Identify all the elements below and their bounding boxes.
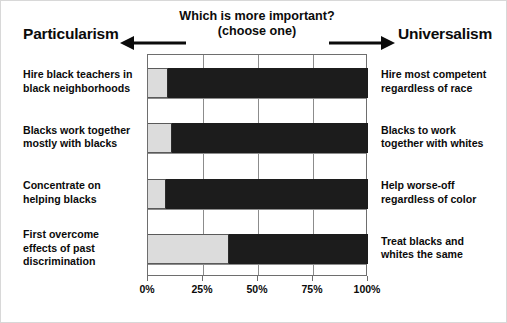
axis-ticks [147, 276, 367, 282]
arrow-right-icon [329, 35, 395, 51]
axis-tick-label: 75% [301, 283, 322, 295]
row-label-right: Blacks to work together with whites [381, 124, 503, 151]
gridline-horizontal [148, 153, 366, 154]
chart-header: Particularism Universalism Which is more… [1, 9, 507, 55]
gridline-horizontal [148, 264, 366, 265]
row-label-left: First overcome effects of past discrimin… [23, 228, 141, 268]
axis-tick-label: 50% [246, 283, 267, 295]
bar-segment-universalism [172, 123, 368, 153]
axis-tick [147, 276, 148, 281]
row-label-left: Concentrate on helping blacks [23, 179, 141, 206]
row-label-left: Hire black teachers in black neighborhoo… [23, 68, 141, 95]
axis-tick-label: 100% [354, 283, 381, 295]
pole-label-particularism: Particularism [23, 25, 119, 43]
stacked-bar [148, 234, 368, 264]
question-line-primary: Which is more important? [147, 9, 367, 24]
axis-tick [312, 276, 313, 281]
stacked-bar [148, 179, 368, 209]
bar-segment-particularism [148, 123, 172, 153]
bar-segment-universalism [166, 179, 368, 209]
bar-segment-universalism [168, 68, 368, 98]
row-label-right: Treat blacks and whites the same [381, 235, 503, 262]
gridline-horizontal [148, 98, 366, 99]
stacked-bar [148, 68, 368, 98]
plot-area [147, 54, 367, 276]
axis-tick-label: 0% [139, 283, 154, 295]
bar-segment-particularism [148, 179, 166, 209]
bar-segment-particularism [148, 234, 229, 264]
arrow-left-icon [120, 35, 186, 51]
row-label-left: Blacks work together mostly with blacks [23, 124, 141, 151]
bar-segment-particularism [148, 68, 168, 98]
axis-tick [367, 276, 368, 281]
gridline-horizontal [148, 209, 366, 210]
chart-figure: Particularism Universalism Which is more… [0, 0, 507, 323]
row-label-right: Help worse-off regardless of color [381, 179, 503, 206]
stacked-bar [148, 123, 368, 153]
row-label-right: Hire most competent regardless of race [381, 68, 503, 95]
axis-tick-labels: 0%25%50%75%100% [1, 283, 507, 301]
pole-label-universalism: Universalism [398, 25, 492, 43]
axis-tick [257, 276, 258, 281]
axis-tick [202, 276, 203, 281]
bar-segment-universalism [229, 234, 368, 264]
axis-tick-label: 25% [191, 283, 212, 295]
